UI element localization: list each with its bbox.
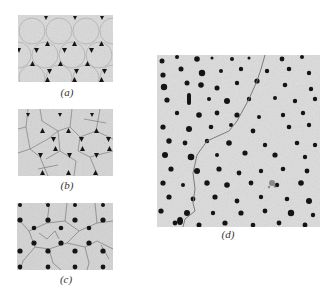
panel-label-c-text: (c) xyxy=(60,273,72,285)
micrograph-b-image xyxy=(18,109,113,176)
micrograph-panel-a xyxy=(18,15,113,82)
panel-label-b-text: (b) xyxy=(61,179,74,191)
panel-label-a: (a) xyxy=(52,86,82,98)
micrograph-c-image xyxy=(17,203,113,270)
panel-label-a-text: (a) xyxy=(61,86,74,98)
micrograph-a-image xyxy=(18,15,113,82)
micrograph-panel-b xyxy=(18,109,113,176)
micrograph-panel-c xyxy=(17,203,113,270)
panel-label-d: (d) xyxy=(213,228,243,240)
panel-label-c: (c) xyxy=(51,273,81,285)
panel-label-d-text: (d) xyxy=(222,228,235,240)
micrograph-d-image xyxy=(157,55,320,227)
micrograph-panel-d xyxy=(157,55,320,227)
panel-label-b: (b) xyxy=(52,179,82,191)
